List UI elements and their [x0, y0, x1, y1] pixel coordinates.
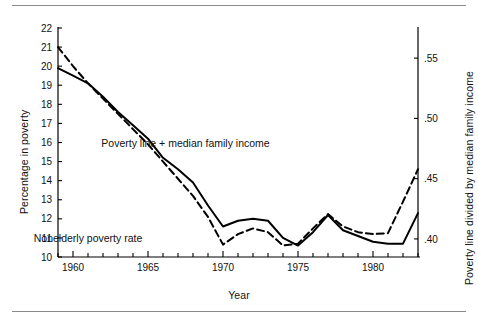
y-tick-label-left: 13 [41, 194, 53, 205]
y-tick-label-left: 20 [41, 61, 53, 72]
y-tick-label-right: .45 [424, 173, 438, 184]
figure-container: Percentage in poverty Poverty line divid… [0, 0, 478, 321]
y-tick-label-left: 21 [41, 42, 53, 53]
y-tick-label-left: 10 [41, 252, 53, 263]
y-tick-label-left: 14 [41, 175, 53, 186]
x-tick-label: 1970 [212, 262, 235, 273]
y-tick-label-left: 16 [41, 137, 53, 148]
chart-annotations-group: Poverty line + median family incomeNonel… [34, 137, 270, 244]
chart-annotation-label: Nonelderly poverty rate [34, 232, 143, 244]
y-tick-label-left: 15 [41, 156, 53, 167]
y-tick-label-right: .50 [424, 113, 438, 124]
x-tick-label: 1975 [287, 262, 310, 273]
y-tick-label-left: 22 [41, 23, 53, 34]
y-tick-label-left: 19 [41, 80, 53, 91]
y-tick-label-left: 18 [41, 99, 53, 110]
y-tick-label-right: .40 [424, 234, 438, 245]
y-tick-label-left: 12 [41, 213, 53, 224]
x-tick-label: 1980 [362, 262, 385, 273]
line-chart: 10111213141516171819202122.40.45.50.5519… [0, 0, 478, 321]
y-tick-label-left: 17 [41, 118, 53, 129]
series-line-solid [58, 68, 418, 245]
x-tick-label: 1960 [62, 262, 85, 273]
y-tick-label-right: .55 [424, 53, 438, 64]
x-tick-label: 1965 [137, 262, 160, 273]
chart-annotation-label: Poverty line + median family income [101, 137, 270, 149]
